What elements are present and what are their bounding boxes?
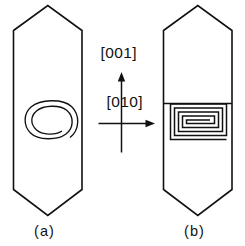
crystal-panel-a — [14, 6, 83, 216]
caption-a: (a) — [34, 223, 55, 239]
axis-label-010: [010] — [107, 93, 143, 110]
crystal-growth-spiral-figure: [001] [010] (a) (b) — [0, 0, 245, 246]
crystal-outline-a — [14, 6, 83, 216]
crystal-axis-indicator — [99, 72, 156, 153]
crystal-panel-b — [164, 6, 233, 216]
caption-b: (b) — [184, 223, 205, 239]
figure-root: [001] [010] (a) (b) — [0, 0, 245, 246]
axis-label-001: [001] — [101, 44, 137, 61]
axis-vertical-arrowhead-icon — [118, 72, 125, 82]
axis-horizontal-arrowhead-icon — [146, 120, 156, 127]
